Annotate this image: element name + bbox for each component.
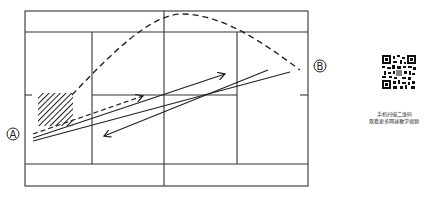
- qr-code[interactable]: [382, 55, 416, 89]
- qr-caption: 手机扫描二维码 观看更多网球教学视频: [362, 111, 425, 125]
- player-a-label: A: [10, 129, 17, 140]
- player-b-label: B: [317, 61, 324, 72]
- player-a-marker: A: [7, 128, 19, 140]
- qr-caption-line2: 观看更多网球教学视频: [362, 118, 425, 125]
- player-b-marker: B: [314, 60, 326, 72]
- qr-caption-line1: 手机扫描二维码: [362, 111, 425, 118]
- target-zone-hatched: [38, 93, 73, 126]
- shot-paths: [33, 14, 300, 141]
- tennis-court-diagram: A B: [0, 0, 425, 199]
- return-arrow-to-a: [104, 70, 268, 136]
- lob-arc-dashed: [72, 14, 300, 95]
